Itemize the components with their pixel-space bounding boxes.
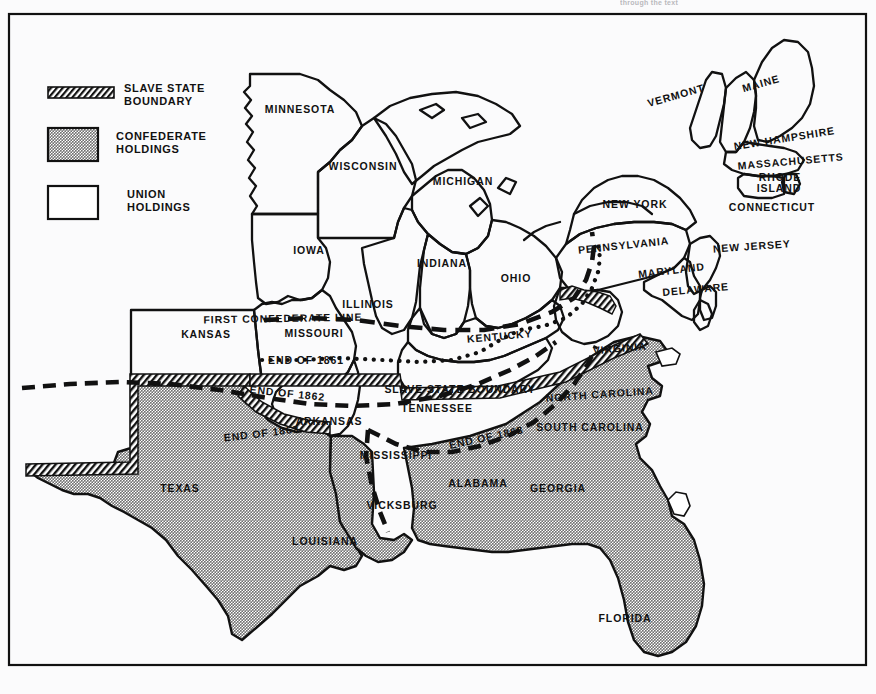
state-label-minnesota: MINNESOTA [265, 103, 335, 115]
legend-swatch-gray-box [48, 128, 98, 161]
state-label-delaware: DELAWARE [662, 280, 730, 298]
state-label-florida: FLORIDA [599, 612, 652, 624]
legend-swatch-hatched-bar [48, 87, 114, 98]
label-slave-state-boundary: SLAVE STATE BOUNDARY [384, 383, 535, 395]
state-label-new-jersey: NEW JERSEY [712, 237, 791, 254]
state-label-new-york: NEW YORK [603, 198, 668, 210]
legend-label-confederate-holdings-line1: CONFEDERATE [116, 130, 207, 142]
state-label-arkansas: ARKANSAS [296, 415, 363, 427]
map-border-frame [9, 14, 866, 665]
state-label-mississippi: MISSISSIPPI [360, 449, 432, 461]
state-label-massachusetts: MASSACHUSETTS [737, 150, 844, 171]
legend-label-confederate-holdings-line2: HOLDINGS [116, 143, 180, 155]
state-label-south-carolina: SOUTH CAROLINA [536, 421, 644, 433]
state-label-wisconsin: WISCONSIN [329, 160, 398, 172]
state-label-texas: TEXAS [160, 482, 200, 494]
label-end-1861: END OF 1861 [268, 354, 344, 366]
civil-war-map-svg: FIRST CONFEDERATE LINE END OF 1861 END O… [0, 0, 876, 694]
label-first-confederate: FIRST CONFEDERATE LINE [203, 311, 362, 326]
state-label-kansas: KANSAS [181, 328, 231, 340]
legend-label-union-holdings-line2: HOLDINGS [127, 201, 191, 213]
state-label-alabama: ALABAMA [448, 477, 507, 489]
legend-label-union-holdings-line1: UNION [127, 188, 166, 200]
map-legend: SLAVE STATE BOUNDARY CONFEDERATE HOLDING… [48, 82, 207, 219]
state-label-connecticut: CONNECTICUT [729, 201, 815, 213]
state-label-island: ISLAND [757, 182, 801, 194]
legend-item-union-holdings: UNION HOLDINGS [48, 186, 191, 219]
state-label-michigan: MICHIGAN [433, 175, 493, 187]
state-label-georgia: GEORGIA [530, 482, 586, 494]
state-label-pennsylvania: PENNSYLVANIA [577, 234, 669, 256]
map-figure: through the text [0, 0, 876, 694]
state-label-indiana: INDIANA [417, 257, 467, 269]
state-label-iowa: IOWA [293, 244, 325, 256]
state-label-tennessee: TENNESSEE [401, 402, 473, 414]
city-label-vicksburg: VICKSBURG [366, 499, 437, 511]
legend-swatch-white-box [48, 186, 98, 219]
state-label-ohio: OHIO [501, 272, 531, 284]
state-label-illinois: ILLINOIS [342, 298, 394, 310]
legend-item-slave-state-boundary: SLAVE STATE BOUNDARY [48, 82, 205, 107]
legend-label-slave-state-boundary-line1: SLAVE STATE [124, 82, 205, 94]
state-label-maine: MAINE [741, 72, 781, 94]
state-label-missouri: MISSOURI [284, 327, 343, 339]
legend-label-slave-state-boundary-line2: BOUNDARY [124, 95, 193, 107]
state-label-louisiana: LOUISIANA [292, 535, 358, 547]
legend-item-confederate-holdings: CONFEDERATE HOLDINGS [48, 128, 207, 161]
